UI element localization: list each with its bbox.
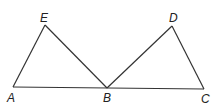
label-d: D — [169, 11, 178, 25]
segment-eb — [45, 25, 107, 88]
label-a: A — [6, 91, 15, 105]
geometry-diagram: E D A B C — [0, 0, 214, 105]
segment-bd — [107, 26, 172, 88]
segment-ae — [13, 25, 45, 87]
label-b: B — [103, 91, 111, 105]
segment-dc — [172, 26, 204, 89]
label-e: E — [40, 11, 49, 25]
label-c: C — [201, 92, 210, 105]
